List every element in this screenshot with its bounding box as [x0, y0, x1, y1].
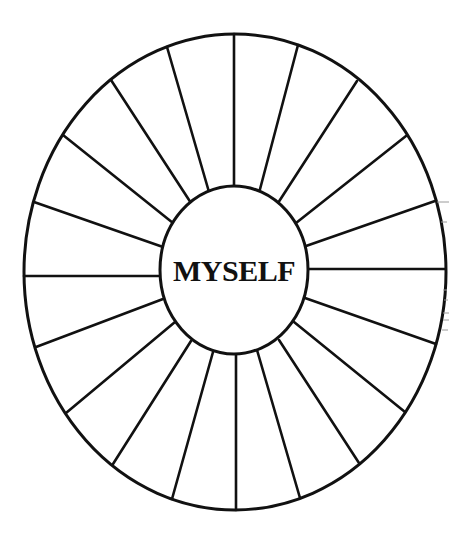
wheel-spoke — [66, 322, 175, 413]
wheel-spoke — [306, 201, 435, 246]
wheel-spoke — [305, 298, 436, 344]
wheel-spoke — [294, 322, 405, 412]
wheel-spoke — [113, 341, 191, 464]
wheel-spoke — [36, 299, 163, 347]
wheel-spoke — [279, 340, 359, 463]
wheel-spoke — [259, 45, 298, 193]
wheel-spoke — [34, 202, 163, 247]
myself-wheel-diagram: MYSELF — [0, 0, 472, 540]
center-label: MYSELF — [173, 254, 295, 287]
wheel-spoke — [167, 47, 209, 192]
wheel-spoke — [257, 350, 300, 498]
wheel-spoke — [172, 352, 213, 499]
